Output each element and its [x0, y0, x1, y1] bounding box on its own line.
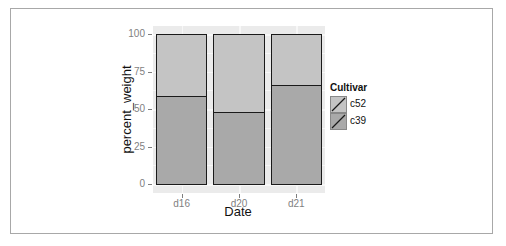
y-tick-mark — [148, 72, 152, 73]
y-tick-label: 0 — [115, 178, 145, 189]
legend-slash-icon — [331, 114, 346, 129]
y-tick-label: 100 — [115, 28, 145, 39]
y-tick-mark — [148, 109, 152, 110]
plot-panel — [153, 26, 325, 193]
y-tick-mark — [148, 184, 152, 185]
legend-key-c39 — [330, 113, 347, 130]
bar-segment-d20-c39 — [213, 112, 265, 185]
y-axis-title: percent_weight — [119, 60, 134, 160]
legend-label-c39: c39 — [350, 115, 366, 126]
bar-segment-d21-c52 — [271, 34, 323, 86]
bar-segment-d16-c39 — [156, 96, 208, 186]
x-axis-title: Date — [208, 204, 268, 219]
bar-segment-d21-c39 — [271, 85, 323, 185]
y-tick-mark — [148, 147, 152, 148]
legend-key-c52 — [330, 96, 347, 113]
legend-slash-icon — [331, 97, 346, 112]
bar-segment-d16-c52 — [156, 34, 208, 97]
x-tick-label: d21 — [276, 198, 316, 209]
bar-segment-d20-c52 — [213, 34, 265, 113]
x-tick-label: d16 — [162, 198, 202, 209]
y-tick-mark — [148, 34, 152, 35]
legend-title: Cultivar — [330, 82, 367, 93]
legend-label-c52: c52 — [350, 98, 366, 109]
